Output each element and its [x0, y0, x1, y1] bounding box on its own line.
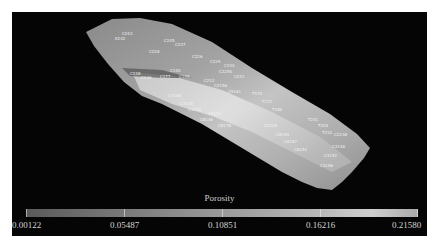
well-label: C3146: [332, 145, 345, 149]
well-label: T172: [262, 100, 272, 104]
well-label: C228: [149, 50, 159, 54]
colorbar-tick-labels: 0.00122 0.05487 0.10851 0.16216 0.21580: [12, 221, 427, 233]
well-label: C2238: [334, 133, 347, 137]
well-label: C229: [210, 60, 220, 64]
well-label: C232: [224, 64, 234, 68]
well-label: T174: [252, 92, 262, 96]
well-label: C145: [179, 75, 189, 79]
well-label: C3168: [168, 94, 181, 98]
tick-label-q1: 0.05487: [110, 221, 139, 230]
well-label: C8193: [276, 133, 289, 137]
tick-label-mid: 0.10851: [208, 221, 237, 230]
well-label: C2125: [264, 124, 277, 128]
tick-label-max: 0.21580: [392, 221, 421, 230]
well-label: C9151: [208, 112, 221, 116]
well-label: C140: [170, 69, 180, 73]
well-label: C2250: [219, 70, 232, 74]
colorbar-tick: [222, 209, 223, 217]
well-label: C226: [192, 55, 202, 59]
well-label: C8187: [284, 140, 297, 144]
well-label: C8146: [200, 118, 213, 122]
well-label: T180: [272, 108, 282, 112]
colorbar-tick: [26, 209, 27, 217]
well-label: C138: [130, 72, 140, 76]
well-label: C3158: [180, 102, 193, 106]
colorbar-tick: [124, 209, 125, 217]
well-label: K242: [115, 37, 125, 41]
porosity-colorbar: [26, 209, 418, 217]
well-label: T212: [322, 131, 332, 135]
well-label: C212: [204, 79, 214, 83]
well-label: C8176: [218, 124, 231, 128]
legend-title: Porosity: [12, 193, 427, 203]
well-label: C9161: [228, 90, 241, 94]
colorbar-tick: [320, 209, 321, 217]
well-label: C136: [141, 76, 151, 80]
3d-viewport[interactable]: C243K242C245C237C228C226C229C232C2250C23…: [12, 12, 427, 236]
tick-label-min: 0.00122: [12, 221, 41, 230]
well-label: C3186: [320, 164, 333, 168]
well-label: C245: [164, 39, 174, 43]
well-label: C3152: [324, 154, 337, 158]
well-label: C177: [160, 75, 170, 79]
well-label: C237: [175, 43, 185, 47]
well-label: C2156: [214, 84, 227, 88]
tick-label-q3: 0.16216: [306, 221, 335, 230]
well-label: T231: [308, 118, 318, 122]
well-label: C231: [234, 75, 244, 79]
well-label: C8151: [294, 148, 307, 152]
well-label: T204: [318, 124, 328, 128]
colorbar-tick: [417, 209, 418, 217]
well-label: C3143: [188, 108, 201, 112]
